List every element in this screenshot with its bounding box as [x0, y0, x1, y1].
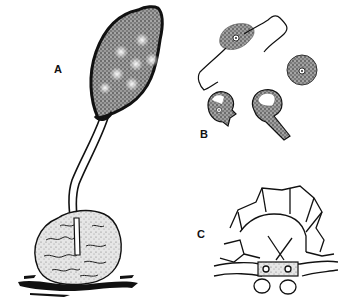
spore-spot: [135, 33, 149, 47]
part-a-sporangium: [18, 7, 162, 297]
part-c-tissue-section: [214, 186, 338, 294]
part-b-zoospores: [198, 16, 317, 140]
cell-wall: [230, 186, 324, 252]
cyst: [280, 280, 296, 294]
cyst: [254, 279, 270, 293]
label-a: A: [54, 63, 62, 75]
spore-spot: [99, 82, 111, 94]
spore-spot: [114, 45, 128, 59]
spore-spot: [129, 57, 143, 71]
illustration-canvas: [0, 0, 338, 298]
label-c: C: [197, 228, 205, 240]
flagellum: [198, 48, 226, 90]
illustration-figure: A B C: [0, 0, 338, 298]
spore-spot: [110, 67, 124, 81]
spore-spot: [125, 77, 139, 91]
label-b: B: [200, 128, 208, 140]
spore-spot: [145, 53, 159, 67]
